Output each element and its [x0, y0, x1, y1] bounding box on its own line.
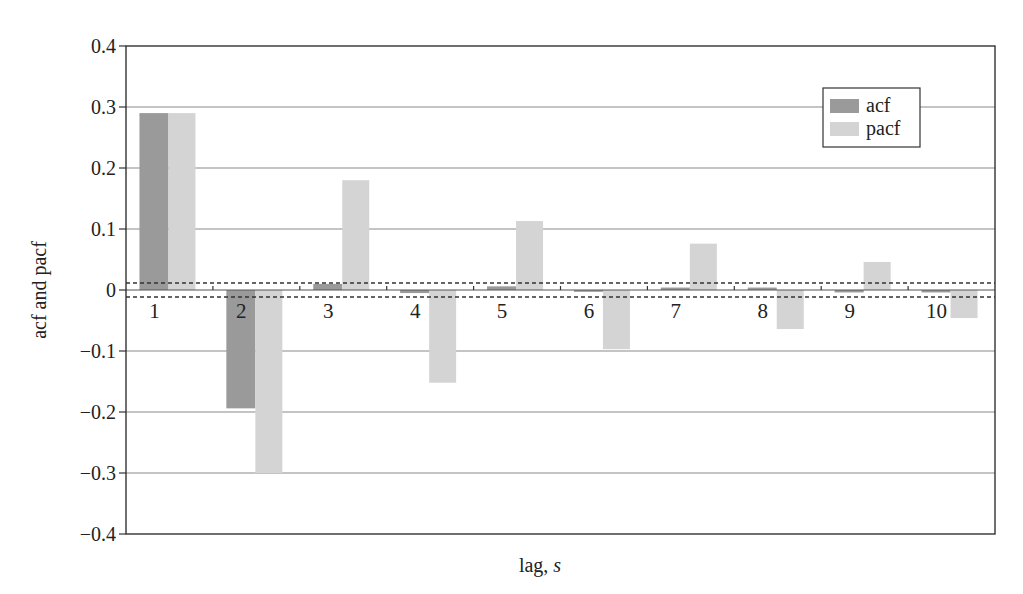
y-axis-ticks: 0.40.30.20.10−0.1−0.2−0.3−0.4 — [80, 35, 126, 545]
y-tick-label: 0 — [106, 279, 116, 301]
legend-swatch-acf — [830, 99, 859, 113]
x-category-label: 9 — [844, 299, 855, 323]
y-tick-label: −0.4 — [80, 523, 116, 545]
bar-pacf-lag-9 — [864, 262, 891, 290]
x-category-label: 1 — [149, 299, 160, 323]
x-category-label: 10 — [926, 299, 947, 323]
legend-swatch-pacf — [830, 122, 859, 136]
x-category-label: 7 — [671, 299, 682, 323]
bar-pacf-lag-6 — [603, 290, 630, 349]
x-axis-title: lag, s — [519, 554, 561, 577]
acf-pacf-bar-chart: 0.40.30.20.10−0.1−0.2−0.3−0.4 1234567891… — [0, 0, 1023, 594]
y-tick-label: −0.2 — [80, 401, 116, 423]
bar-pacf-lag-2 — [255, 290, 282, 473]
bar-pacf-lag-8 — [777, 290, 804, 329]
legend: acf pacf — [823, 88, 920, 147]
legend-label-acf: acf — [866, 94, 891, 116]
y-tick-label: 0.3 — [91, 96, 116, 118]
x-category-label: 5 — [497, 299, 508, 323]
x-category-label: 6 — [584, 299, 595, 323]
y-tick-label: 0.1 — [91, 218, 116, 240]
bar-acf-lag-3 — [313, 284, 342, 290]
x-category-label: 4 — [410, 299, 421, 323]
bars — [139, 113, 977, 473]
y-tick-label: −0.3 — [80, 462, 116, 484]
bar-acf-lag-1 — [139, 113, 168, 290]
bar-pacf-lag-3 — [342, 180, 369, 290]
legend-label-pacf: pacf — [866, 117, 901, 140]
x-category-label: 3 — [323, 299, 334, 323]
bar-pacf-lag-10 — [951, 290, 978, 318]
bar-acf-lag-5 — [487, 286, 516, 290]
y-tick-label: −0.1 — [80, 340, 116, 362]
x-category-label: 8 — [758, 299, 769, 323]
bar-pacf-lag-1 — [168, 113, 195, 290]
y-tick-label: 0.2 — [91, 157, 116, 179]
bar-pacf-lag-5 — [516, 221, 543, 290]
x-category-label: 2 — [236, 299, 247, 323]
y-axis-title: acf and pacf — [28, 241, 51, 339]
bar-pacf-lag-4 — [429, 290, 456, 383]
y-tick-label: 0.4 — [91, 35, 116, 57]
